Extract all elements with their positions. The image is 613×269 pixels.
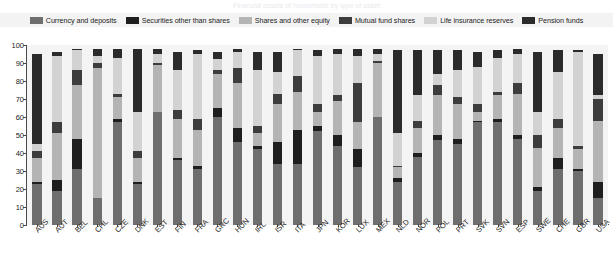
- bar-pol[interactable]: [433, 45, 442, 225]
- bar-nld[interactable]: [393, 45, 402, 225]
- bar-segment: [233, 128, 242, 142]
- bar-segment: [373, 54, 382, 61]
- chart-legend: Currency and depositsSecurities other th…: [0, 13, 613, 27]
- bar-segment: [573, 171, 582, 225]
- legend-label: Mutual fund shares: [355, 16, 415, 25]
- bar-usa[interactable]: [593, 45, 602, 225]
- bars-container: [27, 45, 608, 225]
- bar-segment: [213, 108, 222, 117]
- bar-segment: [153, 65, 162, 112]
- bar-segment: [72, 139, 81, 170]
- bar-gbr[interactable]: [573, 45, 582, 225]
- bar-segment: [133, 49, 142, 112]
- bar-segment: [473, 112, 482, 121]
- bar-segment: [293, 76, 302, 92]
- legend-item-pension_funds[interactable]: Pension funds: [522, 16, 583, 25]
- bar-segment: [353, 167, 362, 225]
- y-tick-mark: [23, 135, 27, 136]
- bar-segment: [72, 169, 81, 225]
- bar-est[interactable]: [153, 45, 162, 225]
- bar-lux[interactable]: [353, 45, 362, 225]
- bar-segment: [293, 50, 302, 75]
- bar-segment: [213, 74, 222, 108]
- bar-nor[interactable]: [413, 45, 422, 225]
- bar-segment: [173, 52, 182, 70]
- bar-segment: [32, 144, 41, 151]
- bar-segment: [133, 112, 142, 152]
- bar-segment: [253, 133, 262, 146]
- bar-segment: [273, 104, 282, 142]
- y-tick-label: 0: [0, 221, 24, 230]
- bar-segment: [433, 95, 442, 135]
- bar-segment: [113, 122, 122, 225]
- bar-esp[interactable]: [513, 45, 522, 225]
- bar-kor[interactable]: [333, 45, 342, 225]
- bar-prt[interactable]: [453, 45, 462, 225]
- bar-segment: [133, 158, 142, 181]
- y-tick-label: 70: [0, 95, 24, 104]
- legend-item-currency_and_deposits[interactable]: Currency and deposits: [30, 16, 117, 25]
- legend-item-shares_and_other_equity[interactable]: Shares and other equity: [239, 16, 330, 25]
- bar-segment: [32, 184, 41, 225]
- bar-segment: [93, 68, 102, 198]
- bar-isr[interactable]: [273, 45, 282, 225]
- y-tick-label: 80: [0, 77, 24, 86]
- legend-swatch-icon: [30, 17, 43, 24]
- bar-irl[interactable]: [253, 45, 262, 225]
- legend-item-securities_other_than_shares[interactable]: Securities other than shares: [126, 16, 230, 25]
- bar-segment: [533, 52, 542, 111]
- legend-item-life_insurance_reserves[interactable]: Life insurance reserves: [424, 16, 513, 25]
- bar-fin[interactable]: [173, 45, 182, 225]
- bar-segment: [193, 130, 202, 166]
- legend-item-mutual_fund_shares[interactable]: Mutual fund shares: [339, 16, 415, 25]
- bar-mex[interactable]: [373, 45, 382, 225]
- bar-segment: [433, 74, 442, 85]
- y-tick-mark: [23, 225, 27, 226]
- bar-grc[interactable]: [213, 45, 222, 225]
- legend-label: Pension funds: [538, 16, 583, 25]
- bar-ita[interactable]: [293, 45, 302, 225]
- bar-segment: [493, 58, 502, 92]
- bar-aut[interactable]: [52, 45, 61, 225]
- bar-swe[interactable]: [533, 45, 542, 225]
- bar-segment: [513, 54, 522, 83]
- legend-swatch-icon: [339, 17, 352, 24]
- bar-aus[interactable]: [32, 45, 41, 225]
- bar-segment: [353, 83, 362, 123]
- bar-segment: [173, 160, 182, 225]
- bar-segment: [393, 182, 402, 225]
- y-tick-mark: [23, 171, 27, 172]
- bar-cze[interactable]: [113, 45, 122, 225]
- bar-segment: [433, 50, 442, 73]
- bar-bel[interactable]: [72, 45, 81, 225]
- y-tick-mark: [23, 189, 27, 190]
- bar-svn[interactable]: [493, 45, 502, 225]
- y-tick-label: 20: [0, 185, 24, 194]
- bar-segment: [93, 49, 102, 56]
- bar-segment: [593, 121, 602, 182]
- bar-segment: [72, 50, 81, 70]
- bar-segment: [353, 149, 362, 167]
- bar-segment: [413, 128, 422, 153]
- bar-segment: [533, 112, 542, 135]
- bar-segment: [153, 54, 162, 63]
- bar-hun[interactable]: [233, 45, 242, 225]
- bar-segment: [433, 140, 442, 225]
- bar-segment: [213, 59, 222, 70]
- bar-che[interactable]: [553, 45, 562, 225]
- bar-svk[interactable]: [473, 45, 482, 225]
- bar-segment: [333, 135, 342, 146]
- chart-title: Financial assets of households by type o…: [0, 0, 613, 12]
- y-tick-label: 10: [0, 203, 24, 212]
- x-axis: AUSAUTBELCHLCZEDNKESTFINFRAGRCHUNIRLISRI…: [27, 228, 608, 269]
- bar-jpn[interactable]: [313, 45, 322, 225]
- bar-segment: [173, 110, 182, 119]
- bar-segment: [52, 56, 61, 123]
- bar-segment: [473, 52, 482, 66]
- bar-segment: [93, 56, 102, 63]
- bar-segment: [453, 50, 462, 70]
- bar-segment: [233, 68, 242, 82]
- bar-dnk[interactable]: [133, 45, 142, 225]
- bar-chl[interactable]: [93, 45, 102, 225]
- bar-fra[interactable]: [193, 45, 202, 225]
